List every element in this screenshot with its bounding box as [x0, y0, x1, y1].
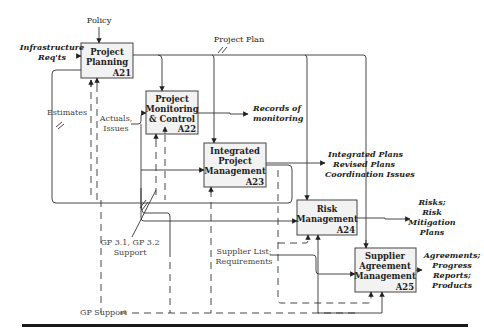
- estimates-label: Estimates: [47, 108, 87, 117]
- activity-box-a23[interactable]: Integrated Project Management A23: [204, 143, 266, 187]
- gp-support-label: GP Support: [80, 308, 128, 317]
- integrated-label-1: Integrated Plans: [327, 149, 404, 159]
- project-plan-label: Project Plan: [214, 34, 265, 44]
- activity-box-a22[interactable]: Project Monitoring & Control A22: [145, 91, 198, 134]
- activity-a23-id: A23: [245, 177, 264, 187]
- agreements-label-1: Agreements;: [423, 250, 481, 260]
- supplier-label-1: Supplier List;: [217, 247, 272, 256]
- activity-a23-line1: Integrated: [210, 146, 260, 156]
- records-label-1: Records of: [252, 103, 302, 113]
- idef0-diagram: Project Planning A21 Project Monitoring …: [0, 0, 484, 335]
- activity-a21-line2: Planning: [86, 57, 128, 67]
- infrastructure-input: Infrastructure Req'ts: [19, 42, 84, 62]
- integrated-plans-output: Integrated Plans Revised Plans Coordinat…: [266, 149, 415, 179]
- policy-arrow: Policy: [87, 15, 112, 43]
- activity-a25-line1: Supplier: [365, 251, 406, 261]
- risks-label-1: Risks;: [417, 197, 445, 207]
- infrastructure-label-2: Req'ts: [37, 52, 66, 62]
- supplier-label-2: Requirements: [216, 257, 273, 266]
- activity-a23-line2: Project: [218, 156, 252, 166]
- activity-a25-line2: Agreement: [358, 261, 411, 271]
- footer-rule: [22, 324, 468, 327]
- activity-a22-id: A22: [177, 124, 196, 134]
- agreements-label-2: Progress: [431, 260, 472, 270]
- activity-box-a21[interactable]: Project Planning A21: [81, 43, 133, 78]
- activity-a21-line1: Project: [90, 47, 124, 57]
- activity-a25-id: A25: [395, 282, 414, 292]
- gp31-label-2: Support: [114, 248, 148, 257]
- risks-label-2: Risk: [421, 207, 442, 217]
- activity-a22-line1: Project: [155, 94, 189, 104]
- integrated-label-3: Coordination Issues: [325, 169, 415, 179]
- agreements-label-3: Reports;: [432, 270, 471, 280]
- records-label-2: monitoring: [253, 113, 304, 123]
- risks-label-4: Plans: [419, 227, 445, 237]
- agreements-label-4: Products: [431, 280, 473, 290]
- activity-box-a24[interactable]: Risk Management A24: [296, 200, 358, 235]
- activity-a23-line3: Management: [204, 166, 266, 176]
- actuals-label-2: Issues: [103, 124, 128, 133]
- activity-a22-line2: Monitoring: [145, 104, 198, 114]
- infrastructure-label-1: Infrastructure: [19, 42, 84, 52]
- activity-a21-id: A21: [112, 68, 131, 78]
- risks-output: Risks; Risk Mitigation Plans: [357, 197, 456, 237]
- gp31-label-1: GP 3.1, GP 3.2: [100, 238, 159, 247]
- actuals-label-1: Actuals,: [99, 114, 133, 123]
- activity-a24-line1: Risk: [317, 204, 338, 214]
- activity-a24-id: A24: [336, 225, 355, 235]
- activity-a24-line2: Management: [296, 214, 358, 224]
- integrated-label-2: Revised Plans: [332, 159, 395, 169]
- activity-box-a25[interactable]: Supplier Agreement Management A25: [354, 248, 416, 292]
- policy-label: Policy: [87, 15, 112, 25]
- agreements-output: Agreements; Progress Reports; Products: [416, 250, 480, 290]
- activity-a22-line3: & Control: [149, 114, 195, 124]
- activity-a25-line3: Management: [354, 271, 416, 281]
- supplier-list-input: Supplier List; Requirements: [216, 247, 355, 274]
- risks-label-3: Mitigation: [407, 217, 455, 227]
